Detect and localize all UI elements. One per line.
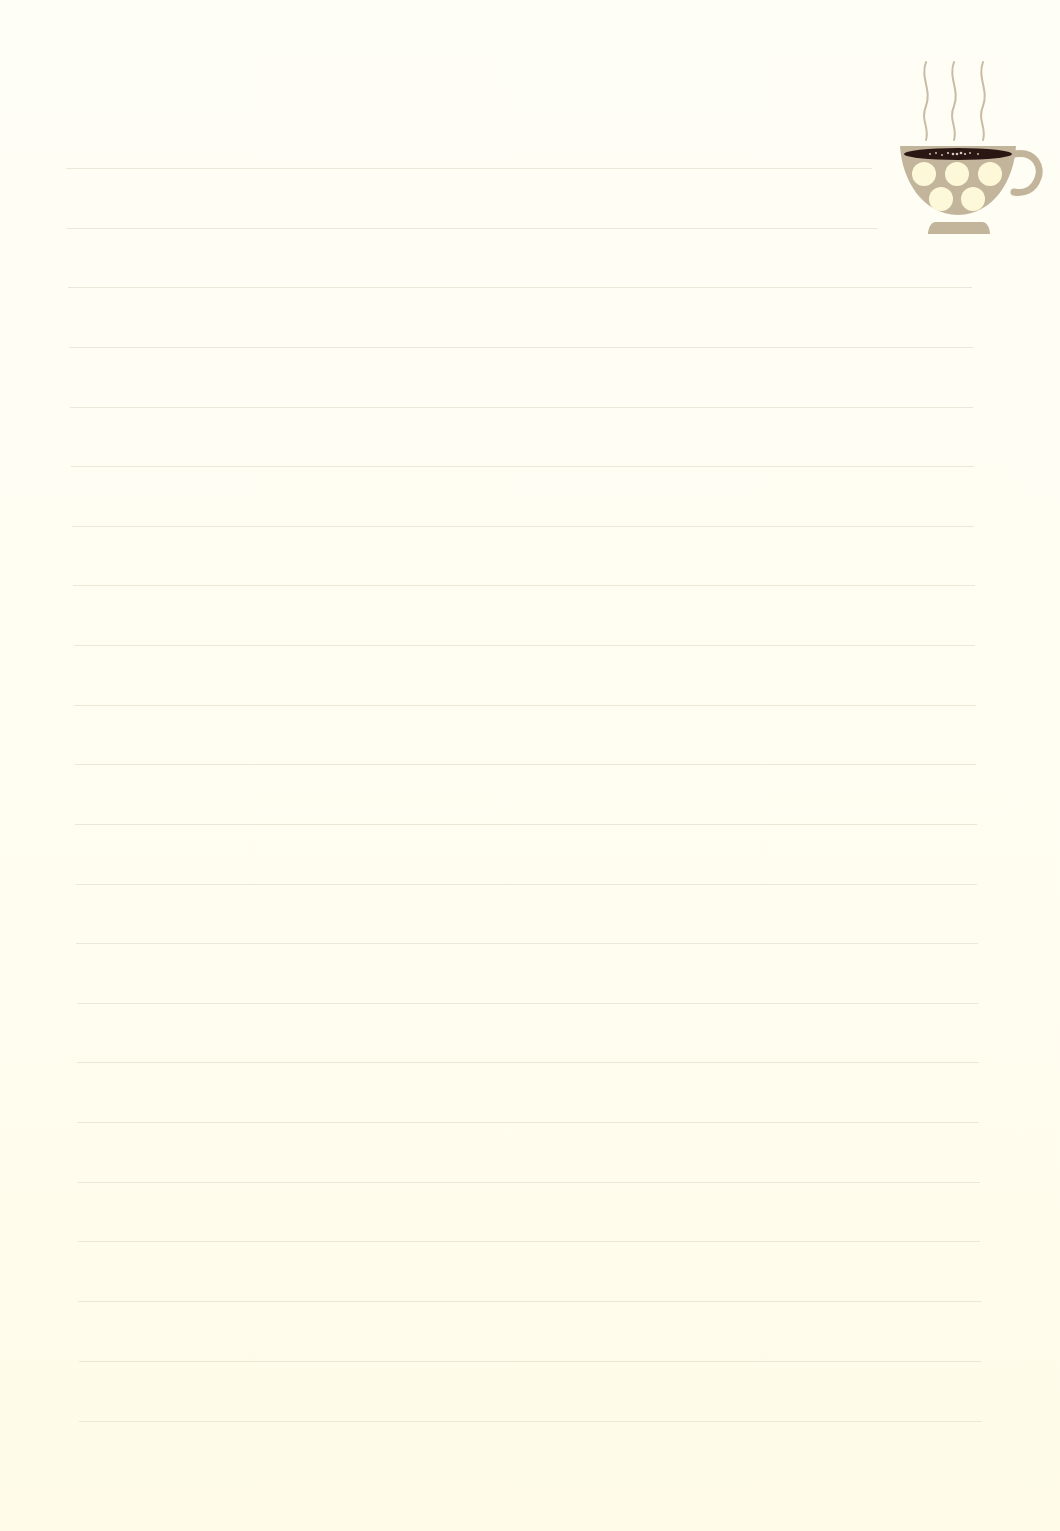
ruled-line bbox=[73, 585, 975, 586]
steam-icon bbox=[924, 62, 985, 140]
ruled-line bbox=[69, 347, 973, 348]
ruled-line bbox=[76, 943, 978, 944]
ruled-line bbox=[78, 1301, 981, 1302]
ruled-line bbox=[79, 1361, 981, 1362]
ruled-line bbox=[66, 168, 872, 169]
ruled-line bbox=[77, 1062, 979, 1063]
ruled-line bbox=[78, 1182, 980, 1183]
ruled-line bbox=[72, 526, 974, 527]
ruled-line bbox=[71, 466, 974, 467]
ruled-line bbox=[79, 1421, 982, 1422]
ruled-line bbox=[76, 884, 977, 885]
ruled-line bbox=[67, 228, 878, 229]
ruled-line bbox=[74, 645, 975, 646]
coffee-cup-icon bbox=[890, 50, 1050, 245]
ruled-line bbox=[68, 287, 972, 288]
ruled-line bbox=[77, 1003, 978, 1004]
cup-handle-icon bbox=[1014, 153, 1039, 192]
ruled-line bbox=[75, 824, 977, 825]
lined-paper bbox=[0, 0, 1060, 1531]
ruled-line bbox=[74, 705, 976, 706]
cup-foot-icon bbox=[928, 222, 990, 234]
ruled-line bbox=[70, 407, 973, 408]
ruled-line bbox=[77, 1122, 979, 1123]
ruled-line bbox=[78, 1241, 980, 1242]
ruled-line bbox=[75, 764, 976, 765]
